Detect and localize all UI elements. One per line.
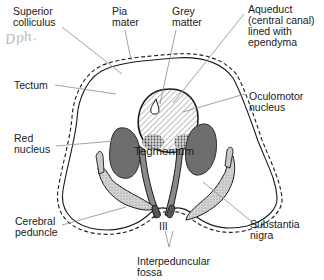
label-oculomotor-nucleus: Oculomotor nucleus: [249, 91, 303, 113]
label-pia-mater: Pia mater: [112, 6, 139, 28]
label-aqueduct: Aqueduct (central canal) lined with epen…: [248, 4, 315, 48]
nerve-iii-root-left: [151, 204, 161, 218]
label-substantia-nigra: Substantia nigra: [250, 219, 300, 241]
label-nerve-iii: III: [159, 221, 168, 232]
label-interpeduncular-fossa: Interpeduncular fossa: [137, 256, 210, 278]
label-superior-colliculus: Superior colliculus: [13, 6, 56, 28]
peduncle-process-left: [96, 152, 104, 175]
label-tegmentum: Tegmentum: [134, 145, 194, 157]
label-grey-matter: Grey matter: [172, 6, 202, 28]
label-cerebral-peduncle: Cerebral peduncle: [15, 216, 58, 238]
label-red-nucleus: Red nucleus: [14, 133, 50, 155]
label-tectum: Tectum: [14, 80, 48, 91]
